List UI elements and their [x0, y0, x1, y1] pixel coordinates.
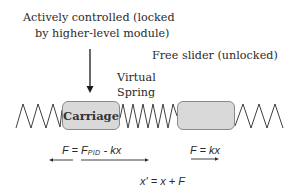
carriage-label: Carriage	[63, 102, 119, 129]
carriage-force-equation: F = FPID - kx	[62, 144, 121, 159]
position-update-equation: x' = x + F	[140, 175, 185, 187]
free-slider-box	[177, 101, 235, 130]
carriage-force-rhs: - kx	[100, 144, 121, 156]
virtual-spring-icon	[120, 104, 177, 128]
free-slider-box-label	[178, 102, 234, 129]
carriage-box: Carriage	[62, 101, 120, 130]
control-arrow-icon	[87, 49, 94, 93]
carriage-force-lhs: F = F	[62, 144, 88, 156]
left-spring-icon	[16, 104, 62, 128]
slider-force-equation: F = kx	[190, 144, 220, 156]
slider-force-arrow-icon	[191, 157, 219, 160]
carriage-force-subscript: PID	[88, 149, 101, 156]
right-spring-icon	[235, 104, 283, 128]
diagram-graphics	[0, 0, 295, 192]
